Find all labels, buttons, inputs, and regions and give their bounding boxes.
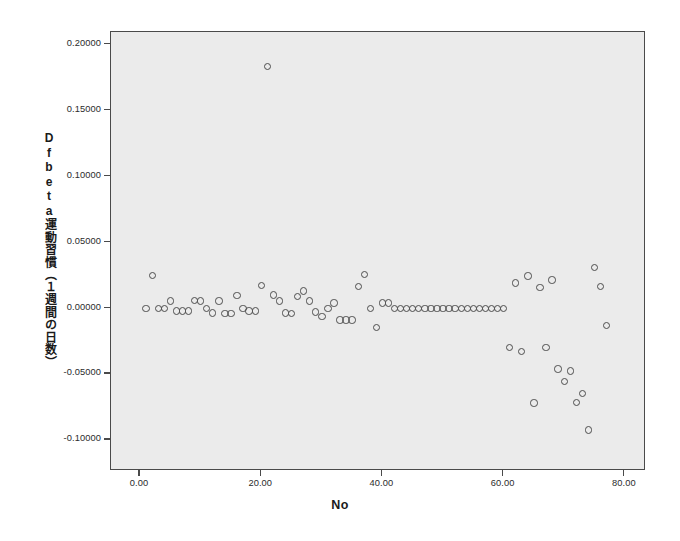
data-point [252,307,259,314]
x-axis-tick-mark [381,470,382,476]
y-axis-tick-label: 0.15000 [67,105,104,114]
data-point [355,283,362,290]
data-point [524,272,531,279]
data-point [215,297,222,304]
x-axis-tick-label: 80.00 [612,479,636,488]
y-axis-tick-label: 0.10000 [67,171,104,180]
y-axis-tick-label: -0.10000 [63,434,104,443]
data-point [306,297,313,304]
data-point [367,305,374,312]
x-axis-tick-label: 40.00 [370,479,394,488]
data-point [554,365,561,372]
data-point [573,399,580,406]
y-axis-tick-label: 0.00000 [67,303,104,312]
data-point [264,63,271,70]
y-axis-tick-mark [104,43,110,44]
x-axis-tick-mark [260,470,261,476]
data-point [512,279,519,286]
data-point [300,287,307,294]
data-points-layer [111,32,644,469]
data-point [233,292,240,299]
data-point [536,284,543,291]
plot-area [110,31,645,470]
y-axis-tick-mark [104,307,110,308]
data-point [258,282,265,289]
data-point [530,399,537,406]
y-axis-tick-mark [104,175,110,176]
data-point [348,316,355,323]
data-point [603,322,610,329]
data-point [506,344,513,351]
data-point [149,272,156,279]
x-axis-tick-label: 20.00 [248,479,272,488]
data-point [361,271,368,278]
x-axis-tick-label: 60.00 [491,479,515,488]
data-point [561,378,568,385]
data-point [597,283,604,290]
y-axis-tick-label: -0.05000 [63,368,104,377]
x-axis-tick-mark [623,470,624,476]
data-point [373,324,380,331]
data-point [330,299,337,306]
data-point [518,348,525,355]
y-axis-tick-label: 0.20000 [67,39,104,48]
x-axis-tick-mark [502,470,503,476]
data-point [161,305,168,312]
data-point [542,344,549,351]
data-point [500,305,507,312]
y-axis-tick-mark [104,109,110,110]
data-point [288,310,295,317]
y-axis-tick-mark [104,241,110,242]
data-point [209,309,216,316]
x-axis-title: No [0,498,680,512]
data-point [185,307,192,314]
data-point [276,297,283,304]
y-axis-tick-mark [104,372,110,373]
y-axis-tick-label: 0.05000 [67,237,104,246]
data-point [227,310,234,317]
data-point [318,313,325,320]
y-axis-tick-mark [104,438,110,439]
data-point [142,305,149,312]
data-point [591,264,598,271]
data-point [197,297,204,304]
scatter-chart: 0.200000.150000.100000.050000.00000-0.05… [0,0,680,541]
x-axis-tick-mark [138,470,139,476]
y-axis-title: Dfbeta運動習慣（１週間の日数） [29,131,55,368]
x-axis-tick-label: 0.00 [130,479,149,488]
data-point [585,426,592,433]
data-point [579,390,586,397]
data-point [548,276,555,283]
data-point [167,297,174,304]
data-point [567,367,574,374]
